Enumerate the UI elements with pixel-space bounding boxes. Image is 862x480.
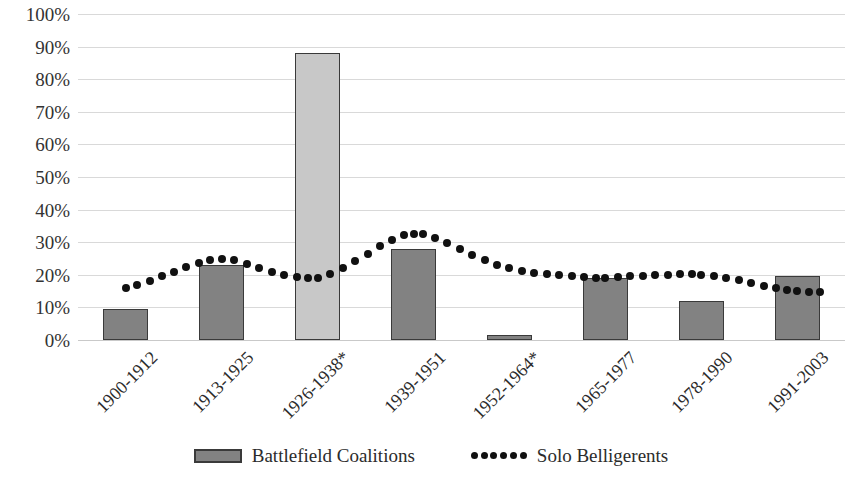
y-axis-tick-label: 80%: [0, 70, 70, 89]
line-point: [280, 271, 288, 279]
line-point: [255, 264, 263, 272]
line-point: [314, 274, 322, 282]
line-series-solo-belligerents: [78, 14, 845, 340]
line-point: [268, 268, 276, 276]
line-point: [783, 286, 791, 294]
line-point: [601, 274, 609, 282]
line-point: [443, 239, 451, 247]
x-axis-tick-label: 1965-1977: [572, 348, 640, 416]
line-point: [555, 271, 563, 279]
legend-item[interactable]: Battlefield Coalitions: [194, 446, 415, 465]
line-point: [530, 269, 538, 277]
y-axis-tick-label: 40%: [0, 200, 70, 219]
legend-label: Solo Belligerents: [537, 446, 668, 465]
line-point: [304, 274, 312, 282]
line-point: [170, 268, 178, 276]
line-point: [400, 231, 408, 239]
line-point: [568, 272, 576, 280]
line-point: [388, 236, 396, 244]
line-point: [664, 271, 672, 279]
legend-item[interactable]: Solo Belligerents: [471, 446, 668, 465]
line-point: [772, 284, 780, 292]
line-point: [146, 277, 154, 285]
x-axis-tick-label: 1978-1990: [668, 348, 736, 416]
line-point: [431, 234, 439, 242]
line-point: [468, 251, 476, 259]
line-point: [688, 270, 696, 278]
line-point: [133, 281, 141, 289]
line-point: [410, 230, 418, 238]
line-point: [218, 255, 226, 263]
y-axis-tick-label: 90%: [0, 37, 70, 56]
line-point: [293, 273, 301, 281]
plot-area: 100%90%80%70%60%50%40%30%20%10%0%: [78, 14, 845, 340]
line-point: [592, 274, 600, 282]
y-axis-tick-label: 100%: [0, 5, 70, 24]
line-point: [364, 250, 372, 258]
x-axis-tick-label: 1926-1938*: [278, 348, 352, 422]
x-axis-tick-label: 1900-1912: [93, 348, 161, 416]
line-point: [505, 264, 513, 272]
line-point: [243, 260, 251, 268]
line-point: [697, 271, 705, 279]
legend-bar-swatch-icon: [194, 449, 242, 463]
x-axis-labels: 1900-19121913-19251926-1938*1939-1951195…: [78, 340, 845, 440]
line-point: [230, 256, 238, 264]
line-point: [722, 274, 730, 282]
x-axis-tick-label: 1991-2003: [764, 348, 832, 416]
line-point: [326, 270, 334, 278]
y-axis-tick-label: 20%: [0, 265, 70, 284]
line-point: [419, 230, 427, 238]
line-point: [481, 256, 489, 264]
y-axis-tick-label: 10%: [0, 298, 70, 317]
line-point: [626, 272, 634, 280]
line-point: [760, 282, 768, 290]
line-point: [158, 272, 166, 280]
line-point: [735, 276, 743, 284]
line-point: [456, 245, 464, 253]
x-axis-tick-label: 1952-1964*: [470, 348, 544, 422]
line-point: [816, 288, 824, 296]
line-point: [376, 242, 384, 250]
line-point: [543, 270, 551, 278]
line-point: [206, 256, 214, 264]
y-axis-tick-label: 50%: [0, 168, 70, 187]
line-point: [614, 273, 622, 281]
line-point: [195, 259, 203, 267]
line-point: [651, 271, 659, 279]
line-point: [351, 257, 359, 265]
line-point: [518, 267, 526, 275]
line-point: [710, 272, 718, 280]
line-point: [793, 287, 801, 295]
line-point: [639, 272, 647, 280]
chart-container: 100%90%80%70%60%50%40%30%20%10%0% 1900-1…: [0, 0, 862, 480]
legend-label: Battlefield Coalitions: [252, 446, 415, 465]
y-axis-tick-label: 0%: [0, 331, 70, 350]
line-point: [747, 279, 755, 287]
line-point: [493, 261, 501, 269]
x-axis-tick-label: 1939-1951: [380, 348, 448, 416]
chart-legend: Battlefield CoalitionsSolo Belligerents: [0, 446, 862, 465]
line-point: [182, 263, 190, 271]
y-axis-tick-label: 70%: [0, 102, 70, 121]
line-point: [122, 284, 130, 292]
y-axis-tick-label: 60%: [0, 135, 70, 154]
x-axis-tick-label: 1913-1925: [189, 348, 257, 416]
legend-dotted-line-icon: [471, 452, 527, 460]
line-point: [805, 288, 813, 296]
y-axis-tick-label: 30%: [0, 233, 70, 252]
line-point: [580, 273, 588, 281]
line-point: [339, 264, 347, 272]
line-point: [676, 270, 684, 278]
